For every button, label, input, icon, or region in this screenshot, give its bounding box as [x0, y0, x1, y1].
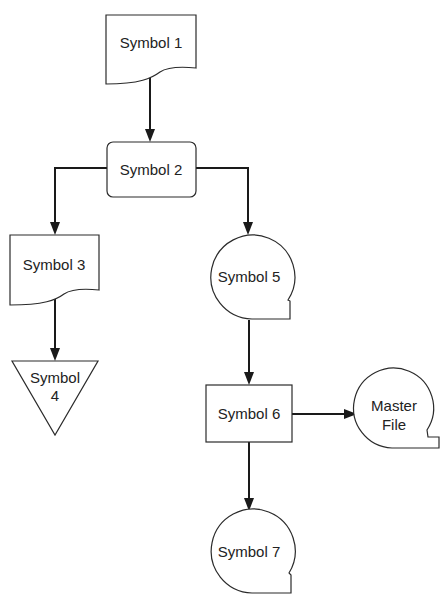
arrowhead-icon — [145, 129, 155, 142]
arrowhead-icon — [244, 372, 254, 385]
node-label: Symbol 1 — [120, 34, 183, 51]
node-symbol-5: Symbol 5 — [211, 235, 295, 319]
edge-s2-s5 — [196, 168, 248, 225]
node-label-line1: Symbol — [30, 369, 80, 386]
node-label: Symbol 6 — [218, 405, 281, 422]
node-label-line2: File — [382, 416, 406, 433]
edge-s2-s3 — [55, 168, 107, 225]
node-symbol-2: Symbol 2 — [107, 142, 196, 197]
node-symbol-3: Symbol 3 — [10, 235, 99, 305]
node-label: Symbol 7 — [218, 543, 281, 560]
node-symbol-1: Symbol 1 — [106, 15, 196, 84]
connectors — [50, 76, 357, 511]
node-label-line2: 4 — [51, 387, 59, 404]
arrowhead-icon — [50, 348, 60, 361]
arrowhead-icon — [50, 222, 60, 235]
node-symbol-6: Symbol 6 — [206, 385, 292, 442]
node-master-file: Master File — [354, 368, 439, 448]
node-symbol-7: Symbol 7 — [211, 509, 295, 593]
node-label: Symbol 3 — [23, 256, 86, 273]
flowchart-canvas: Symbol 1 Symbol 2 Symbol 3 Symbol 4 Symb… — [0, 0, 444, 603]
node-label-line1: Master — [371, 397, 417, 414]
node-symbol-4: Symbol 4 — [12, 361, 98, 435]
node-label: Symbol 5 — [218, 268, 281, 285]
node-label: Symbol 2 — [120, 161, 183, 178]
arrowhead-icon — [243, 222, 253, 235]
